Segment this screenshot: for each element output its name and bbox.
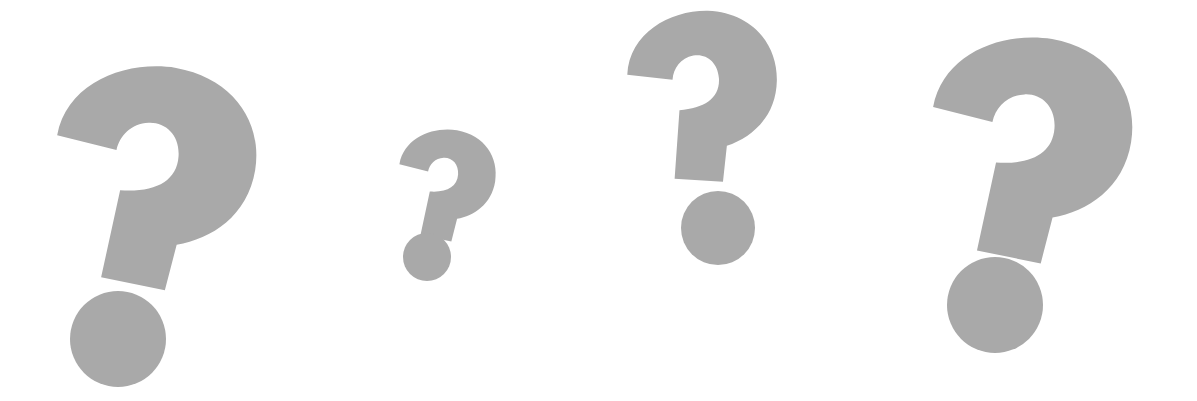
question-marks-canvas: ? ? ? ? (0, 0, 1197, 401)
question-marks-illustration (0, 0, 1197, 401)
question-mark-4-icon (923, 31, 1139, 353)
question-mark-3-icon (623, 6, 784, 265)
question-mark-1-icon (47, 59, 262, 387)
question-mark-2-icon (394, 126, 498, 281)
